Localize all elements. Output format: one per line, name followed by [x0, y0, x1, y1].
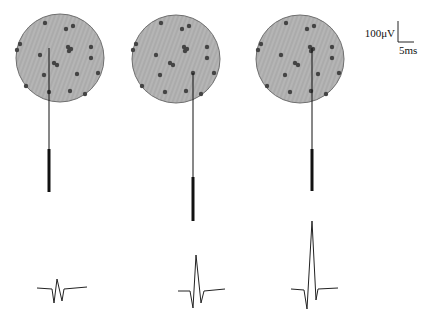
- neuron-dot: [279, 53, 283, 57]
- figure-root: 100μV 5ms: [0, 0, 431, 318]
- neuron-dot: [284, 21, 288, 25]
- neuron-dot: [180, 27, 184, 31]
- neuron-dot: [259, 42, 263, 46]
- neuron-dot: [184, 89, 188, 93]
- recording-panel-2: [131, 15, 225, 308]
- neuron-dot: [42, 73, 46, 77]
- scale-bar: 100μV 5ms: [365, 21, 418, 56]
- neuron-dot: [212, 71, 216, 75]
- neuron-dot: [64, 27, 68, 31]
- neuron-dot: [89, 56, 93, 60]
- neuron-dot: [154, 53, 158, 57]
- neuron-dot: [312, 24, 316, 28]
- neuron-dot: [183, 49, 187, 53]
- neuron-dot: [83, 92, 87, 96]
- scale-bar-time-label: 5ms: [399, 44, 417, 56]
- neuron-dot: [324, 92, 328, 96]
- neuron-dot: [68, 89, 72, 93]
- neuron-dot: [71, 24, 75, 28]
- recording-panel-1: [15, 14, 104, 303]
- neuron-dot: [67, 49, 71, 53]
- neuron-dot: [24, 84, 28, 88]
- neuron-dot: [205, 45, 209, 49]
- neuron-dot: [38, 53, 42, 57]
- neuron-dot: [199, 92, 203, 96]
- electrode-recording-diagram: 100μV 5ms: [0, 0, 431, 318]
- neuron-dot: [288, 90, 292, 94]
- spike-waveform: [178, 255, 225, 308]
- neuron-dot: [163, 90, 167, 94]
- spike-waveform: [37, 279, 87, 303]
- neuron-dot: [330, 56, 334, 60]
- neuron-dot: [55, 63, 59, 67]
- neuron-dot: [205, 56, 209, 60]
- neuron-dot: [256, 48, 260, 52]
- spike-waveform: [291, 221, 338, 309]
- neuron-dot: [75, 72, 79, 76]
- neuron-dot: [43, 21, 47, 25]
- neuron-dot: [296, 63, 300, 67]
- neuron-dot: [330, 45, 334, 49]
- neuron-dot: [265, 84, 269, 88]
- neuron-dot: [15, 48, 19, 52]
- neuron-dot: [89, 45, 93, 49]
- neuron-dot: [159, 21, 163, 25]
- neuron-dot: [337, 71, 341, 75]
- neuron-dot: [18, 42, 22, 46]
- panels-group: [15, 14, 344, 309]
- neuron-dot: [134, 42, 138, 46]
- recording-panel-3: [256, 15, 344, 309]
- neuron-dot: [131, 48, 135, 52]
- neuron-dot: [283, 73, 287, 77]
- neuron-dot: [305, 27, 309, 31]
- neuron-dot: [140, 84, 144, 88]
- neuron-dot: [171, 63, 175, 67]
- neuron-dot: [316, 72, 320, 76]
- neuron-dot: [158, 73, 162, 77]
- scale-bar-voltage-label: 100μV: [365, 27, 395, 39]
- neuron-dot: [96, 71, 100, 75]
- neuron-dot: [187, 24, 191, 28]
- neuron-dot: [309, 49, 313, 53]
- neuron-dot: [309, 89, 313, 93]
